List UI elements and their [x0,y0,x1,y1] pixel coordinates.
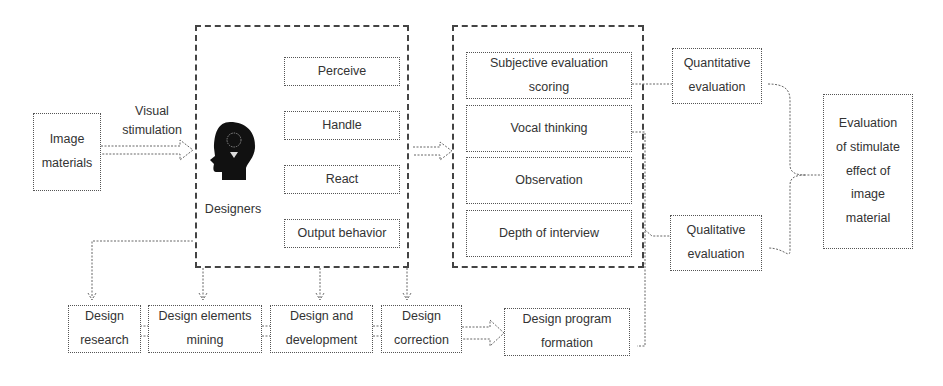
stage-perceive: Perceive [284,57,400,86]
method-observation: Observation [466,157,632,204]
stage-output-behavior: Output behavior [284,219,400,248]
stage-handle: Handle [284,111,400,140]
qualitative-evaluation-box: Qualitative evaluation [670,215,762,271]
process-label: Design correction [387,305,457,353]
designers-label: Designers [198,200,268,219]
image-materials-label: Image materials [39,128,95,176]
method-vocal-thinking: Vocal thinking [466,105,632,152]
process-label: Design elements mining [155,305,255,353]
method-subjective-scoring: Subjective evaluation scoring [466,52,632,99]
process-elements-mining: Design elements mining [148,305,262,353]
quantitative-label: Quantitative evaluation [677,52,757,100]
stage-react: React [284,165,400,194]
formation-label: Design program formation [512,308,622,356]
process-design-correction: Design correction [381,305,462,353]
result-label: Evaluation of stimulate effect of image … [832,112,904,231]
process-design-research: Design research [68,305,141,353]
process-label: Design research [75,305,135,353]
process-label: Design and development [277,305,367,353]
method-depth-interview: Depth of interview [466,210,632,257]
method-label: Subjective evaluation scoring [479,52,619,100]
quantitative-evaluation-box: Quantitative evaluation [672,48,762,104]
result-box: Evaluation of stimulate effect of image … [823,94,913,249]
qualitative-label: Qualitative evaluation [676,219,756,267]
image-materials-box: Image materials [33,113,101,191]
head-lightbulb-icon [208,120,258,182]
design-program-formation: Design program formation [504,308,630,356]
process-design-development: Design and development [270,305,373,353]
visual-stimulation-label: Visual stimulation [112,102,192,140]
